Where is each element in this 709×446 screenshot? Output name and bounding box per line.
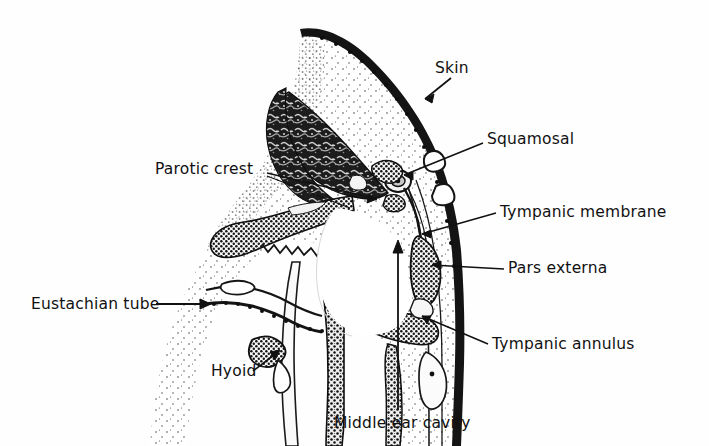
skin-notch (432, 184, 454, 205)
label-tympanic-membrane: Tympanic membrane (500, 203, 666, 221)
eustachian-lower-wall (204, 302, 322, 332)
ossicle-process (383, 195, 405, 212)
label-middle-ear-cavity: Middle ear cavity (334, 414, 471, 432)
anatomy-drawing (0, 0, 709, 446)
leader-skin (425, 78, 451, 99)
label-pars-externa: Pars externa (508, 259, 607, 277)
label-hyoid: Hyoid (211, 362, 256, 380)
label-parotic-crest: Parotic crest (155, 160, 253, 178)
label-tympanic-annulus: Tympanic annulus (492, 335, 635, 353)
auricular-fold (424, 151, 445, 172)
eustachian-tube-lumen (221, 281, 255, 295)
label-eustachian-tube: Eustachian tube (31, 295, 159, 313)
label-skin: Skin (435, 59, 469, 77)
foramen-dot (430, 372, 435, 377)
eustachian-tube-region (204, 281, 324, 333)
label-squamosal: Squamosal (487, 130, 574, 148)
anatomical-figure: Skin Squamosal Parotic crest Tympanic me… (0, 0, 709, 446)
